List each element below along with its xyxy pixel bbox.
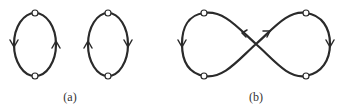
panel-b-figure-eight (178, 10, 334, 79)
panel-a-right-loop (84, 10, 132, 79)
vertex-node (201, 73, 207, 79)
panel-a-left-loop (10, 10, 60, 79)
vertex-node (303, 10, 309, 16)
panel-a-label: (a) (63, 90, 76, 104)
vertex-node (105, 73, 111, 79)
vertex-node (201, 10, 207, 16)
figure-eight-curve (182, 13, 330, 77)
left-loop-curve (14, 13, 56, 76)
vertex-node (32, 10, 38, 16)
panel-b-label: (b) (249, 90, 263, 104)
right-loop-curve (88, 13, 128, 76)
vertex-node (303, 73, 309, 79)
diagram-canvas: (a) (b) (0, 0, 342, 109)
vertex-node (32, 73, 38, 79)
vertex-node (105, 10, 111, 16)
